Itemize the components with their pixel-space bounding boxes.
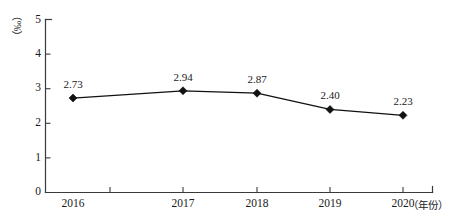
data-point-label: 2.94 (173, 71, 193, 83)
y-axis-ticks (46, 54, 51, 158)
data-point-label: 2.87 (247, 73, 267, 85)
chart-canvas: 0 1 2 3 4 5 （‰） 2016 2017 2018 2019 2020… (0, 0, 455, 222)
x-axis-title: （年份） (408, 199, 448, 211)
series-line (73, 91, 403, 116)
data-point-marker (69, 94, 77, 102)
data-point-marker (326, 105, 334, 113)
y-tick-label-2: 2 (35, 116, 41, 128)
series-point-labels: 2.732.942.872.402.23 (63, 71, 413, 108)
x-tick-label-2017: 2017 (172, 197, 195, 209)
y-tick-label-1: 1 (35, 151, 41, 163)
y-tick-label-3: 3 (35, 81, 41, 93)
x-axis-tick-labels: 2016 2017 2018 2019 2020 (62, 197, 415, 209)
y-tick-label-5: 5 (35, 13, 41, 25)
x-axis-ticks (110, 187, 403, 193)
y-tick-label-0: 0 (35, 185, 41, 197)
y-axis-title: （‰） (12, 11, 23, 42)
data-point-marker (253, 89, 261, 97)
y-axis-tick-labels: 0 1 2 3 4 5 (35, 13, 41, 197)
data-point-label: 2.23 (393, 95, 413, 107)
y-tick-label-4: 4 (35, 47, 41, 59)
data-point-label: 2.73 (63, 78, 83, 90)
data-point-marker (179, 87, 187, 95)
series-markers (69, 87, 407, 120)
x-tick-label-2018: 2018 (246, 197, 269, 209)
data-point-marker (399, 111, 407, 119)
x-tick-label-2016: 2016 (62, 197, 85, 209)
x-tick-label-2019: 2019 (319, 197, 342, 209)
line-chart: 0 1 2 3 4 5 （‰） 2016 2017 2018 2019 2020… (0, 0, 455, 222)
data-point-label: 2.40 (320, 89, 340, 101)
